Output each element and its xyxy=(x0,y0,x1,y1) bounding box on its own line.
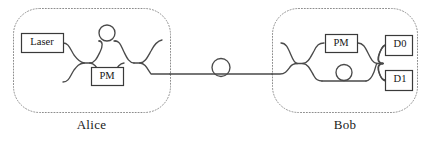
alice-coupler2-lower-output xyxy=(140,63,170,74)
bob-channel-input xyxy=(272,64,297,75)
bob-pm-label: PM xyxy=(326,38,356,49)
bob-lower-arm-right xyxy=(366,64,377,82)
alice-pm-label: PM xyxy=(92,71,122,82)
alice-coupler1-lower-input xyxy=(63,63,84,82)
bob-coupler2-branch-up xyxy=(378,45,386,64)
bob-lower-arm-left xyxy=(303,64,322,82)
alice-enclosure xyxy=(14,9,171,113)
alice-delay-loop-icon xyxy=(99,25,115,41)
bob-upper-arm-right xyxy=(358,43,377,64)
alice-laser-fiber xyxy=(63,43,84,63)
detector-d0-label: D0 xyxy=(388,39,412,50)
alice-upper-arm-left xyxy=(90,41,102,63)
bob-delay-loop-icon xyxy=(336,65,352,81)
alice-coupler2-upper-output xyxy=(140,40,162,63)
bob-party-label: Bob xyxy=(272,117,418,133)
laser-label: Laser xyxy=(22,37,62,48)
bob-coupler1-upper-input xyxy=(281,43,297,64)
alice-upper-arm-right xyxy=(115,41,134,63)
bob-coupler2-branch-down xyxy=(378,64,386,82)
alice-party-label: Alice xyxy=(13,117,170,133)
bob-upper-arm-left xyxy=(303,43,324,64)
qkd-setup-figure: Laser PM PM D0 D1 Alice Bob xyxy=(0,0,428,144)
detector-d1-label: D1 xyxy=(388,74,412,85)
